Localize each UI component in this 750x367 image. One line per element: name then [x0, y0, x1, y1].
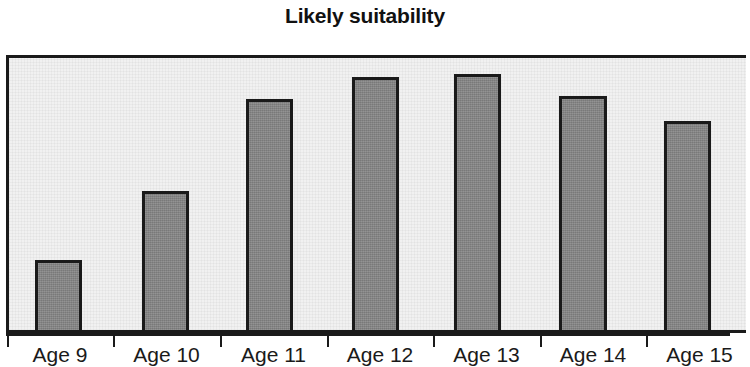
bar [246, 99, 293, 330]
x-axis-tick-label: Age 11 [220, 343, 327, 367]
x-axis-tick-label: Age 10 [113, 343, 220, 367]
bar [454, 74, 501, 330]
x-axis-tick-label: Age 14 [540, 343, 646, 367]
chart-title: Likely suitability [0, 4, 730, 28]
x-axis-tick-label: Age 13 [433, 343, 540, 367]
bar [35, 260, 82, 330]
x-axis-tick-label: Age 15 [646, 343, 750, 367]
bar [664, 121, 711, 330]
x-axis-tick-label: Age 9 [7, 343, 113, 367]
x-axis-tick-label: Age 12 [327, 343, 433, 367]
bar [559, 96, 607, 330]
bar [142, 191, 189, 330]
plot-area [6, 55, 746, 333]
bar [352, 77, 399, 330]
